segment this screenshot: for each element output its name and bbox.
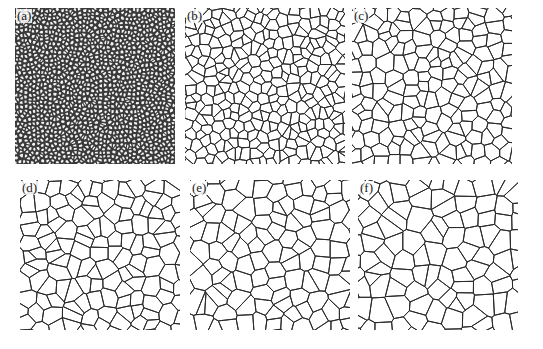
panel-label-a: (a) (16, 9, 32, 23)
panel-label-c: (c) (353, 9, 369, 23)
panel-d: (d) (20, 180, 180, 330)
panel-label-e: (e) (191, 181, 207, 195)
panel-c: (c) (352, 8, 512, 164)
grain-network (185, 8, 345, 164)
grain-network (352, 8, 512, 164)
panel-label-d: (d) (21, 181, 38, 195)
panel-e: (e) (190, 180, 350, 330)
panel-a: (a) (15, 8, 175, 164)
grain-network (358, 180, 518, 330)
panel-b: (b) (185, 8, 345, 164)
panel-f: (f) (358, 180, 518, 330)
panel-label-b: (b) (186, 9, 203, 23)
panel-label-f: (f) (359, 181, 374, 195)
grain-network (15, 8, 175, 164)
grain-network (20, 180, 180, 330)
grain-network (190, 180, 350, 330)
